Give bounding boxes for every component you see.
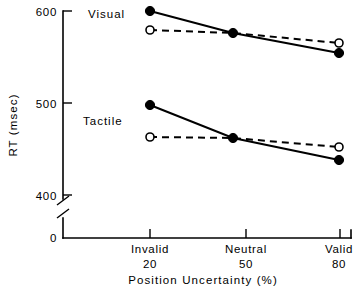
y-tick-label-0: 0 [50,232,57,244]
y-tick-label-500: 500 [36,98,57,110]
series-label-visual: Visual [88,8,125,20]
chart-figure: 600 500 400 0 RT (msec) Invalid 20 Neutr… [0,0,359,289]
series-line-tactile-filled [150,105,339,160]
series-tactile [145,100,343,164]
data-point-visual-open-valid [335,39,343,47]
data-point-tactile-open-valid [335,143,343,151]
x-tick-value-neutral: 50 [239,258,253,270]
x-tick-value-invalid: 20 [143,258,157,270]
series-visual [145,6,343,57]
x-tick-label-neutral: Neutral [225,243,267,255]
y-tick-label-400: 400 [36,190,57,202]
rt-line-chart: 600 500 400 0 RT (msec) Invalid 20 Neutr… [0,0,359,289]
x-tick-value-valid: 80 [332,258,346,270]
data-point-visual-filled-valid [334,48,343,57]
y-tick-label-600: 600 [36,6,57,18]
series-line-visual-open [150,30,339,43]
y-axis-break-mark-lower [57,209,69,218]
data-point-tactile-filled-invalid [145,100,154,109]
x-axis-title: Position Uncertainty (%) [128,274,278,286]
data-point-tactile-open-invalid [146,133,154,141]
data-point-visual-filled-neutral [228,28,237,37]
data-point-tactile-filled-neutral [228,133,237,142]
x-tick-label-invalid: Invalid [131,243,169,255]
x-tick-label-valid: Valid [325,243,353,255]
data-point-tactile-filled-valid [334,155,343,164]
series-label-tactile: Tactile [83,115,123,127]
series-line-tactile-open [150,137,339,147]
data-point-visual-filled-invalid [145,6,154,15]
y-axis-title: RT (msec) [7,93,19,156]
data-point-visual-open-invalid [146,26,154,34]
